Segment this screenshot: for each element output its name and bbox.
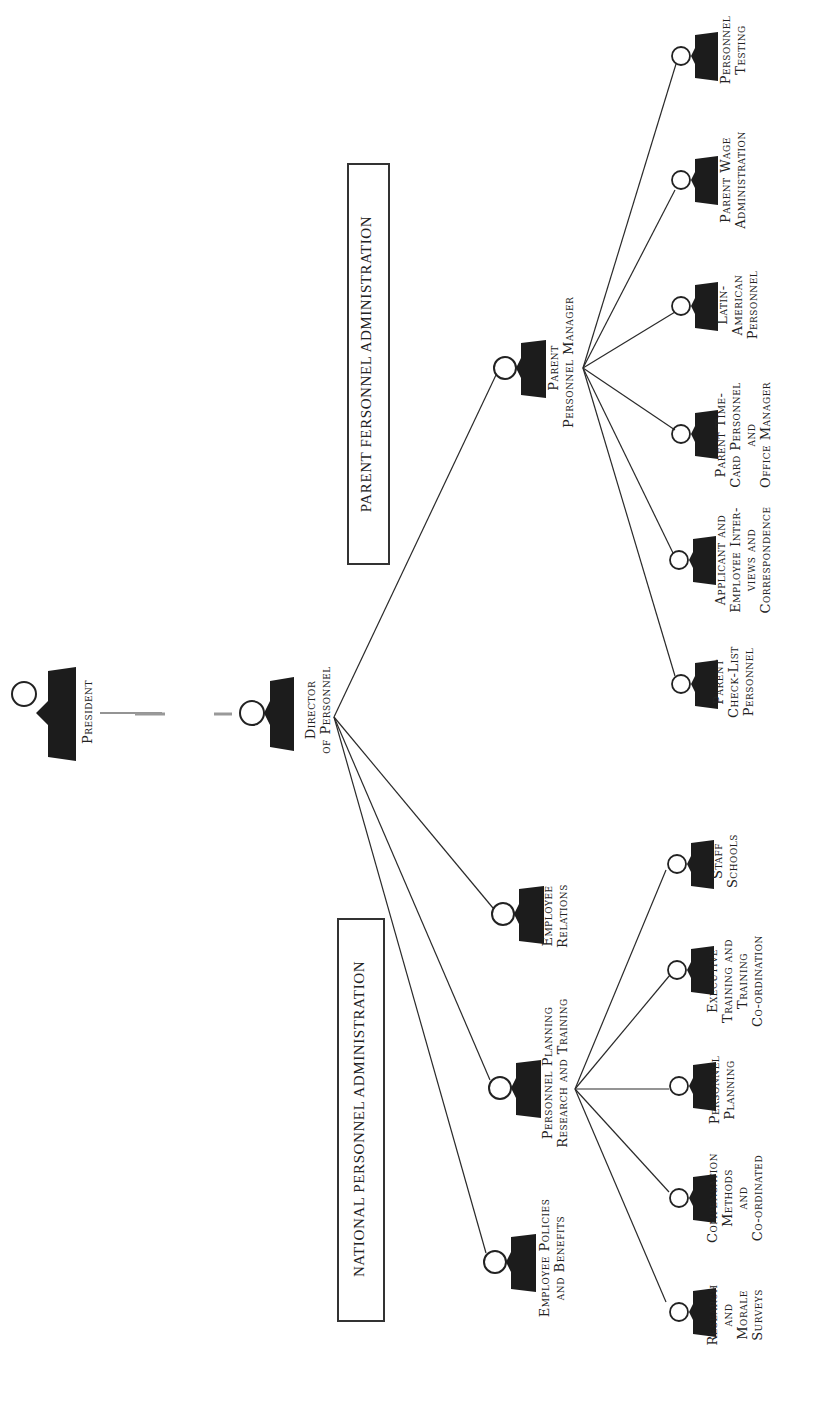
- node-label-line: of Personnel: [318, 655, 333, 765]
- node-label-line: views and: [743, 495, 758, 625]
- node-label-line: Personnel: [745, 255, 760, 355]
- person-icon-personnel-planning-rt: [487, 1056, 545, 1122]
- node-compensation[interactable]: Compensation Methods and Co-ordinated: [705, 1148, 765, 1248]
- node-director[interactable]: Director of Personnel: [303, 655, 333, 765]
- node-personnel-testing[interactable]: Personnel Testing: [718, 0, 748, 100]
- node-label-line: Co-ordination: [750, 926, 765, 1036]
- node-personnel-planning-rt[interactable]: Personnel Planning Research and Training: [540, 998, 570, 1148]
- node-label-line: Research: [705, 1280, 720, 1350]
- node-label-line: Executive: [705, 926, 720, 1036]
- node-label-line: Administration: [733, 120, 748, 240]
- node-parent-manager[interactable]: Parent Personnel Manager: [546, 308, 576, 428]
- node-employee-policies[interactable]: Employee Policies and Benefits: [537, 1198, 567, 1318]
- node-wage-admin[interactable]: Parent Wage Administration: [718, 120, 748, 240]
- node-label-line: Employee: [540, 876, 555, 956]
- node-label-line: Office Manager: [758, 365, 773, 505]
- node-label-line: Parent Wage: [718, 120, 733, 240]
- node-label-line: American: [730, 255, 745, 355]
- node-label-line: Director: [303, 655, 318, 765]
- section-title-national: NATIONAL PERSONNEL ADMINISTRATION: [351, 933, 368, 1305]
- node-label-line: and Benefits: [552, 1198, 567, 1318]
- node-label-line: Parent Time-: [713, 365, 728, 505]
- node-pers-planning[interactable]: Personnel Planning: [707, 1050, 737, 1130]
- node-label-line: Methods: [720, 1148, 735, 1248]
- node-label-line: Personnel Manager: [561, 308, 576, 428]
- node-latin-american[interactable]: Latin- American Personnel: [715, 255, 760, 355]
- node-label-line: Planning: [722, 1050, 737, 1130]
- node-label-line: and: [743, 365, 758, 505]
- node-label-line: Research and Training: [555, 998, 570, 1148]
- node-time-card[interactable]: Parent Time- Card Personnel and Office M…: [713, 365, 773, 505]
- edge-pm-timecard: [583, 368, 675, 430]
- node-executive-training[interactable]: Executive Training and Training Co-ordin…: [705, 926, 765, 1036]
- node-label-line: Training and: [720, 926, 735, 1036]
- node-label-line: Personnel: [707, 1050, 722, 1130]
- node-label-line: Check-List: [726, 642, 741, 722]
- node-research-morale[interactable]: Research and Morale Surveys: [705, 1280, 765, 1350]
- node-employee-relations[interactable]: Employee Relations: [540, 876, 570, 956]
- node-label-line: and: [735, 1148, 750, 1248]
- node-check-list[interactable]: Parent Check-List Personnel: [711, 642, 756, 722]
- node-label-line: Applicant and: [713, 495, 728, 625]
- node-label-line: Parent: [711, 642, 726, 722]
- node-label-line: Training: [735, 926, 750, 1036]
- node-label-line: President: [80, 662, 95, 762]
- person-icon-director: [236, 673, 298, 755]
- node-president[interactable]: President: [80, 662, 95, 762]
- node-label-line: Morale: [735, 1280, 750, 1350]
- edge-pp-research: [575, 1089, 666, 1302]
- node-label-line: Parent: [546, 308, 561, 428]
- edge-pp-executive: [575, 975, 670, 1089]
- node-label-line: Schools: [725, 826, 740, 896]
- edge-pp-compensation: [575, 1089, 669, 1192]
- edge-pm-applicant: [583, 368, 673, 553]
- person-icon-personnel-testing: [670, 30, 722, 84]
- section-title-parent: PARENT FERSONNEL ADMINISTRATION: [358, 188, 375, 540]
- node-label-line: Testing: [733, 0, 748, 100]
- node-label-line: Compensation: [705, 1148, 720, 1248]
- node-label-line: Co-ordinated: [750, 1148, 765, 1248]
- node-label-line: and: [720, 1280, 735, 1350]
- edge-pm-checklist: [583, 368, 675, 676]
- node-label-line: Surveys: [750, 1280, 765, 1350]
- person-icon-employee-policies: [482, 1230, 540, 1296]
- node-label-line: Relations: [555, 876, 570, 956]
- node-label-line: Personnel: [741, 642, 756, 722]
- node-label-line: Latin-: [715, 255, 730, 355]
- node-label-line: Correspondence: [758, 495, 773, 625]
- node-label-line: Employee Policies: [537, 1198, 552, 1318]
- node-label-line: Employee Inter-: [728, 495, 743, 625]
- node-label-line: Card Personnel: [728, 365, 743, 505]
- node-label-line: Staff: [710, 826, 725, 896]
- edge-pp-staff: [575, 870, 666, 1089]
- node-applicant[interactable]: Applicant and Employee Inter- views and …: [713, 495, 773, 625]
- person-icon-president: [6, 665, 78, 765]
- node-staff-schools[interactable]: Staff Schools: [710, 826, 740, 896]
- node-label-line: Personnel: [718, 0, 733, 100]
- node-label-line: Personnel Planning: [540, 998, 555, 1148]
- person-icon-parent-manager: [492, 336, 550, 402]
- person-icon-wage-admin: [670, 154, 722, 208]
- edge-director-employee-relations: [334, 717, 493, 908]
